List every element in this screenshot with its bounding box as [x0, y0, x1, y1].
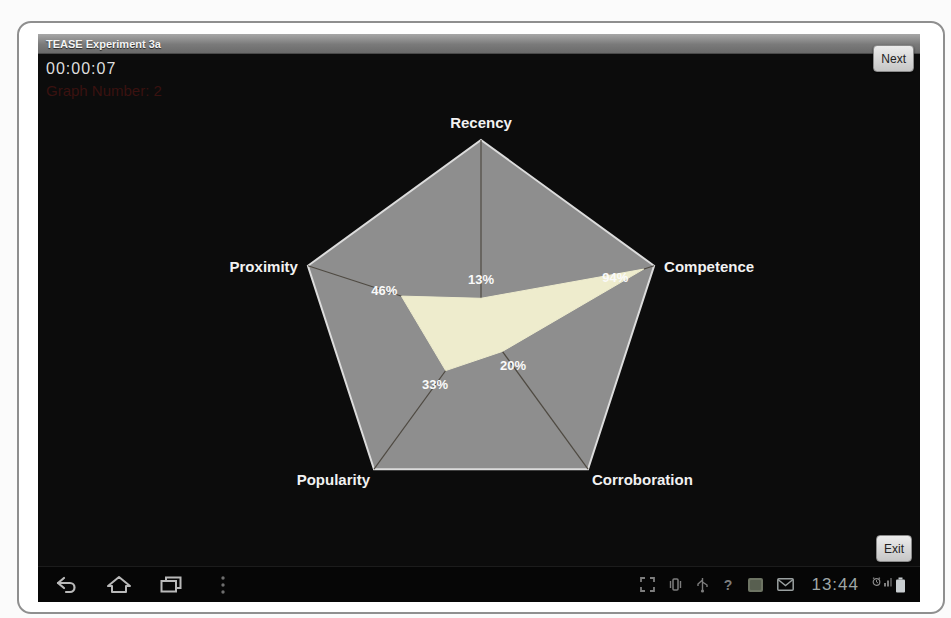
navbar-status-cluster: ? 13:44	[640, 575, 920, 595]
app-title-bar: TEASE Experiment 3a	[38, 34, 920, 54]
navbar-left-cluster	[38, 574, 236, 596]
exit-button[interactable]: Exit	[876, 535, 912, 562]
axis-label-popularity: Popularity	[297, 471, 371, 488]
battery-icon	[895, 577, 906, 593]
screenshot-icon[interactable]	[640, 577, 655, 592]
experiment-timer: 00:00:07	[46, 60, 116, 78]
status-mini-icons	[872, 577, 906, 593]
recents-icon[interactable]	[158, 574, 184, 596]
svg-text:?: ?	[724, 577, 733, 593]
alarm-icon	[872, 577, 881, 587]
axis-label-corroboration: Corroboration	[592, 471, 693, 488]
signal-icon	[883, 577, 893, 587]
email-icon[interactable]	[777, 578, 794, 591]
app-title: TEASE Experiment 3a	[46, 38, 161, 50]
android-navbar: ? 13:44	[38, 566, 920, 602]
menu-overflow-icon[interactable]	[210, 574, 236, 596]
home-icon[interactable]	[106, 574, 132, 596]
axis-label-recency: Recency	[450, 114, 512, 131]
axis-label-proximity: Proximity	[230, 258, 299, 275]
value-label-competence: 94%	[602, 270, 628, 285]
device-screen: RecencyCompetenceCorroborationPopularity…	[38, 34, 920, 602]
next-button[interactable]: Next	[873, 45, 914, 72]
value-label-recency: 13%	[468, 272, 494, 287]
value-label-corroboration: 20%	[500, 358, 526, 373]
help-icon[interactable]: ?	[722, 577, 734, 593]
value-label-proximity: 46%	[371, 283, 397, 298]
app-icon[interactable]	[747, 577, 764, 593]
usb-icon[interactable]	[696, 577, 709, 593]
vibrate-icon[interactable]	[668, 577, 683, 592]
radar-chart: RecencyCompetenceCorroborationPopularity…	[38, 34, 920, 602]
status-clock[interactable]: 13:44	[811, 575, 859, 595]
axis-label-competence: Competence	[664, 258, 754, 275]
value-label-popularity: 33%	[422, 377, 448, 392]
back-icon[interactable]	[54, 574, 80, 596]
graph-number-label: Graph Number: 2	[46, 82, 162, 99]
